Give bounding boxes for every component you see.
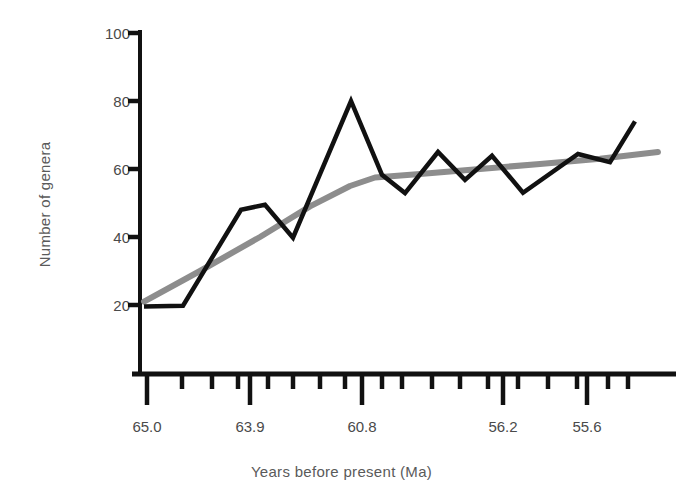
trend-line-series [144, 152, 658, 302]
chart-figure: Number of genera Years before present (M… [0, 0, 683, 502]
series-layer [144, 101, 658, 306]
axes-layer [128, 30, 676, 405]
genera-count-series [144, 101, 635, 306]
x-tick-marks [147, 372, 628, 405]
chart-canvas [0, 0, 683, 502]
